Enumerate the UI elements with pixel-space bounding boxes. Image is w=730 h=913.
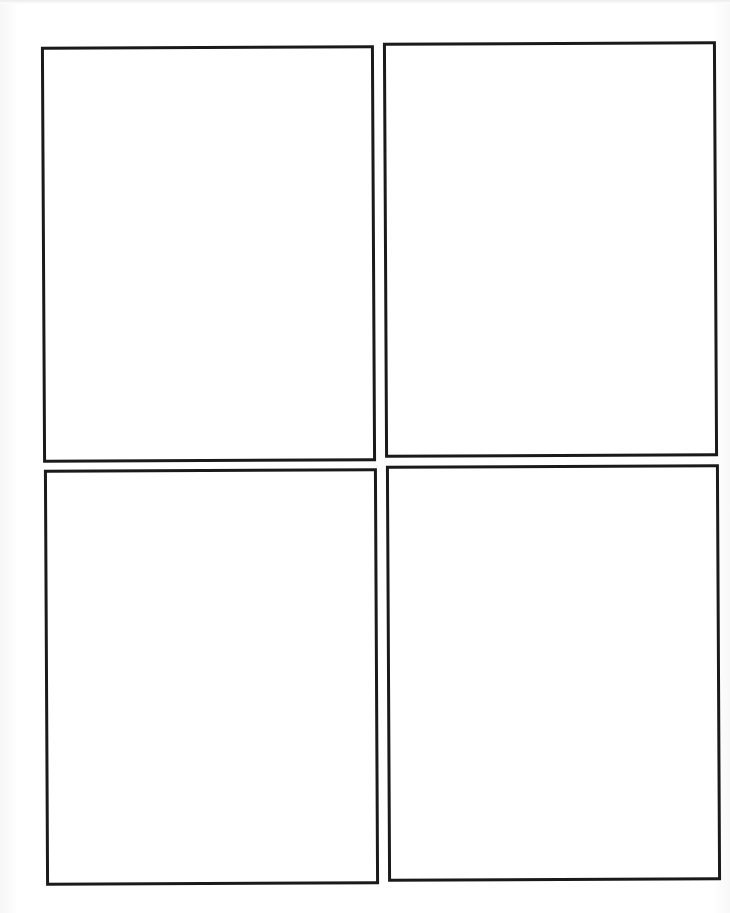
scan-edge-shadow	[0, 0, 730, 4]
comic-panel-2	[383, 41, 718, 458]
panel-3-content	[47, 473, 48, 474]
panel-4-content	[389, 469, 390, 470]
panel-2-content	[386, 46, 387, 47]
comic-page	[0, 0, 730, 913]
comic-panel-1	[41, 45, 376, 463]
panel-1-content	[44, 50, 45, 51]
comic-panel-4	[386, 464, 721, 882]
comic-panel-3	[44, 468, 379, 886]
